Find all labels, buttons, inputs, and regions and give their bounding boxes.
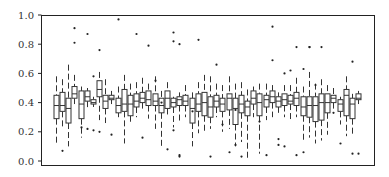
outlier-point (357, 153, 359, 155)
box-plot (134, 33, 139, 117)
outlier-point (320, 46, 322, 48)
outlier-point (234, 109, 236, 111)
outlier-point (332, 112, 334, 114)
box-plot (313, 84, 318, 144)
iqr-box (103, 95, 108, 108)
iqr-box (165, 91, 170, 109)
iqr-box (97, 81, 102, 97)
box-plot (233, 84, 238, 147)
box-plot (153, 76, 158, 129)
outlier-point (271, 59, 273, 61)
iqr-box (257, 94, 262, 116)
iqr-box (227, 94, 232, 110)
box-plot (344, 76, 349, 136)
iqr-box (220, 98, 225, 111)
box-plot (140, 78, 145, 139)
outlier-point (302, 151, 304, 153)
box-plot (325, 85, 330, 135)
outlier-point (110, 134, 112, 136)
iqr-box (54, 95, 59, 118)
box-plot (103, 79, 108, 123)
iqr-box (196, 94, 201, 112)
box-plot (338, 97, 343, 145)
iqr-box (301, 97, 306, 116)
outlier-point (166, 148, 168, 150)
outlier-point (221, 123, 223, 125)
box-plot (257, 84, 262, 154)
iqr-box (183, 95, 188, 105)
iqr-box (146, 91, 151, 106)
y-tick-label: 1.0 (18, 10, 34, 21)
box-plot (239, 82, 244, 158)
box-plot (288, 69, 293, 120)
outlier-point (283, 72, 285, 74)
y-tick-label: 0.6 (18, 68, 34, 79)
box-plot (307, 46, 312, 138)
iqr-box (331, 95, 336, 102)
outlier-point (86, 33, 88, 35)
box-series (54, 18, 361, 158)
box-plot (146, 45, 151, 119)
iqr-box (325, 94, 330, 113)
iqr-box (128, 95, 133, 115)
outlier-point (147, 45, 149, 47)
box-plot (79, 87, 84, 138)
iqr-box (313, 97, 318, 122)
outlier-point (73, 42, 75, 44)
outlier-point (92, 129, 94, 131)
box-plot (183, 85, 188, 117)
box-plot (356, 91, 361, 155)
outlier-point (117, 18, 119, 20)
iqr-box (356, 94, 361, 100)
outlier-point (258, 120, 260, 122)
outlier-point (178, 154, 180, 156)
box-plot (350, 61, 355, 155)
iqr-box (122, 89, 127, 111)
iqr-box (153, 94, 158, 106)
iqr-box (177, 97, 182, 106)
outlier-point (265, 154, 267, 156)
iqr-box (338, 100, 343, 112)
outlier-point (351, 61, 353, 63)
box-plot (190, 92, 195, 146)
outlier-point (61, 150, 63, 152)
outlier-point (289, 69, 291, 71)
box-plot (97, 49, 102, 133)
iqr-box (307, 97, 312, 117)
box-plot (85, 33, 90, 130)
outlier-point (178, 43, 180, 45)
outlier-point (86, 128, 88, 130)
y-axis: 0.00.20.40.60.81.0 (18, 10, 41, 167)
iqr-box (350, 98, 355, 118)
outlier-point (209, 156, 211, 158)
iqr-box (245, 101, 250, 116)
box-plot (54, 76, 59, 143)
outlier-point (314, 84, 316, 86)
box-plot (60, 79, 65, 152)
box-plot (294, 46, 299, 156)
plot-frame (42, 16, 375, 166)
iqr-box (91, 100, 96, 104)
iqr-box (66, 98, 71, 123)
box-plot (171, 31, 176, 131)
y-tick-label: 0.2 (18, 126, 34, 137)
outlier-point (92, 75, 94, 77)
outlier-point (98, 49, 100, 51)
outlier-point (172, 40, 174, 42)
boxplot-chart: 0.00.20.40.60.81.0 (0, 0, 389, 177)
box-plot (214, 64, 219, 118)
outlier-point (339, 142, 341, 144)
y-tick-label: 0.0 (18, 156, 34, 167)
outlier-point (302, 68, 304, 70)
box-plot (227, 76, 232, 153)
outlier-point (295, 154, 297, 156)
box-plot (128, 84, 133, 123)
iqr-box (79, 91, 84, 119)
box-plot (116, 18, 121, 117)
iqr-box (319, 94, 324, 120)
box-plot (331, 88, 336, 114)
iqr-box (60, 92, 65, 111)
box-plot (196, 39, 201, 134)
outlier-point (228, 151, 230, 153)
iqr-box (134, 94, 139, 107)
